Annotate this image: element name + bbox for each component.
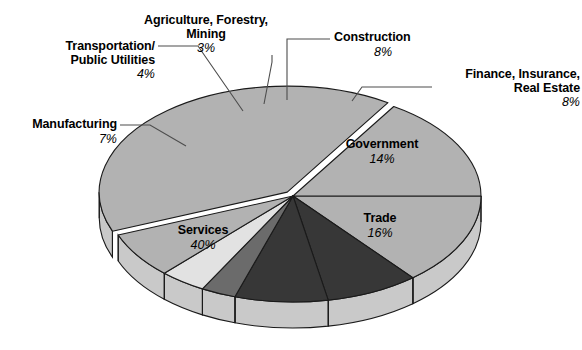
label-transportation-line2: Public Utilities — [0, 54, 155, 68]
label-manufacturing-value: 7% — [0, 132, 117, 146]
label-finance: Finance, Insurance, Real Estate 8% — [400, 68, 580, 109]
label-manufacturing-line1: Manufacturing — [0, 118, 117, 132]
label-services: Services 40% — [155, 224, 251, 252]
label-transportation-line1: Transportation/ — [0, 40, 155, 54]
label-manufacturing: Manufacturing 7% — [0, 118, 117, 146]
label-services-line1: Services — [155, 224, 251, 238]
label-finance-line2: Real Estate — [400, 82, 580, 96]
label-construction-value: 8% — [334, 45, 432, 59]
label-transportation: Transportation/ Public Utilities 4% — [0, 40, 155, 81]
label-transportation-value: 4% — [0, 67, 155, 81]
label-services-value: 40% — [155, 238, 251, 252]
label-construction: Construction 8% — [334, 31, 474, 59]
label-government-value: 14% — [325, 152, 439, 166]
label-trade-value: 16% — [345, 226, 415, 240]
label-government-line1: Government — [325, 138, 439, 152]
label-finance-line1: Finance, Insurance, — [400, 68, 580, 82]
label-construction-line1: Construction — [334, 31, 474, 45]
label-government: Government 14% — [325, 138, 439, 166]
label-trade: Trade 16% — [345, 212, 415, 240]
label-finance-value: 8% — [400, 95, 580, 109]
label-trade-line1: Trade — [345, 212, 415, 226]
label-agriculture-line1: Agriculture, Forestry, — [126, 14, 286, 28]
pie-chart: Agriculture, Forestry, Mining 3% Transpo… — [0, 0, 582, 350]
